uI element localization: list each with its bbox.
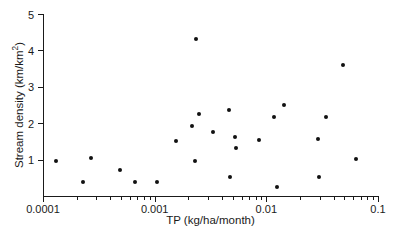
x-tick-0.1 (378, 196, 379, 202)
x-minor-tick (242, 196, 243, 200)
x-tick-label: 0.1 (370, 204, 385, 215)
y-tick-5: 5 (38, 14, 43, 15)
y-axis-title-main: Stream density (km/km (13, 50, 25, 168)
y-tick-3: 3 (38, 87, 43, 88)
x-minor-tick (130, 196, 131, 200)
data-point (227, 108, 231, 112)
y-tick-label: 1 (28, 155, 34, 166)
x-minor-tick (344, 196, 345, 200)
x-minor-tick (233, 196, 234, 200)
x-minor-tick (320, 196, 321, 200)
x-tick-label: 0.0001 (26, 204, 60, 215)
x-tick-0.0001 (43, 196, 44, 202)
data-point (341, 63, 345, 67)
x-tick-label: 0.001 (141, 204, 169, 215)
x-tick-label: 0.01 (256, 204, 277, 215)
data-point (197, 112, 201, 116)
y-tick-label: 5 (28, 9, 34, 20)
x-tick-0.001 (155, 196, 156, 202)
x-minor-tick (256, 196, 257, 200)
data-point (234, 146, 238, 150)
data-point (54, 159, 58, 163)
data-point (233, 135, 237, 139)
x-minor-tick (300, 196, 301, 200)
x-tick-0.01 (266, 196, 267, 202)
data-point (133, 180, 137, 184)
data-point (257, 138, 261, 142)
y-axis-title: Stream density (km/km2) (12, 14, 26, 196)
x-minor-tick (361, 196, 362, 200)
x-minor-tick (222, 196, 223, 200)
x-minor-tick (367, 196, 368, 200)
data-point (193, 159, 197, 163)
data-point (275, 185, 279, 189)
y-tick-label: 2 (28, 118, 34, 129)
data-point (89, 156, 93, 160)
y-tick-2: 2 (38, 123, 43, 124)
x-minor-tick (121, 196, 122, 200)
data-point (118, 168, 122, 172)
data-point (316, 137, 320, 141)
y-axis-line (43, 14, 44, 196)
data-point (174, 139, 178, 143)
data-point (324, 115, 328, 119)
y-tick-4: 4 (38, 50, 43, 51)
data-point (190, 124, 194, 128)
x-minor-tick (261, 196, 262, 200)
x-minor-tick (373, 196, 374, 200)
data-point (354, 157, 358, 161)
y-tick-label: 4 (28, 45, 34, 56)
x-minor-tick (188, 196, 189, 200)
data-point (282, 103, 286, 107)
x-minor-tick (353, 196, 354, 200)
y-tick-1: 1 (38, 160, 43, 161)
data-point (155, 180, 159, 184)
data-point (228, 175, 232, 179)
x-axis-line (43, 196, 379, 197)
y-axis-title-tail: ) (13, 42, 25, 46)
x-minor-tick (96, 196, 97, 200)
x-minor-tick (144, 196, 145, 200)
plot-area: 12345 0.00010.0010.010.1 (43, 14, 378, 196)
x-minor-tick (137, 196, 138, 200)
scatter-plot-figure: 12345 0.00010.0010.010.1 TP (kg/ha/month… (0, 0, 399, 241)
x-minor-tick (150, 196, 151, 200)
data-point (211, 130, 215, 134)
x-minor-tick (249, 196, 250, 200)
data-point (81, 180, 85, 184)
x-minor-tick (110, 196, 111, 200)
x-minor-tick (208, 196, 209, 200)
y-tick-label: 3 (28, 82, 34, 93)
x-minor-tick (334, 196, 335, 200)
data-point (194, 37, 198, 41)
x-minor-tick (77, 196, 78, 200)
data-point (317, 175, 321, 179)
y-axis-title-exponent: 2 (11, 46, 20, 51)
x-axis-title: TP (kg/ha/month) (43, 215, 378, 227)
data-point (272, 115, 276, 119)
